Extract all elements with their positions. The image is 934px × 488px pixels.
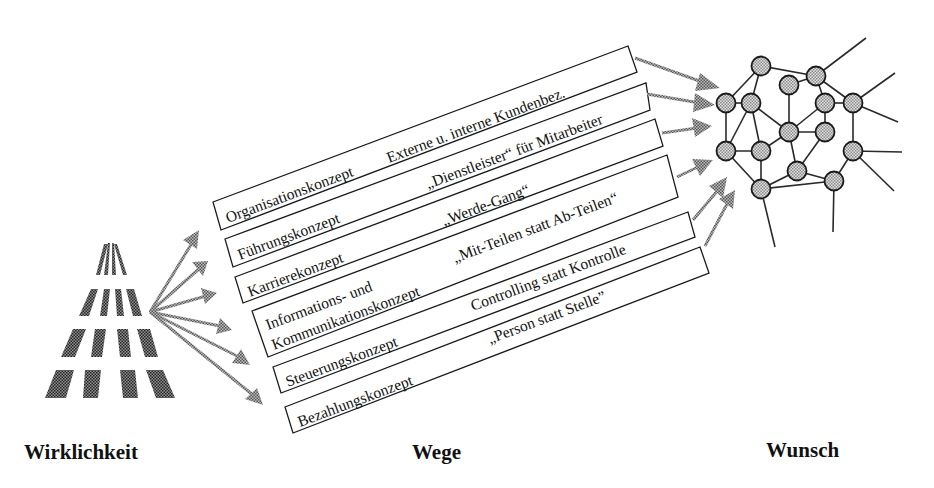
network-node	[717, 94, 736, 113]
network-node	[825, 172, 844, 191]
network-node	[844, 142, 863, 161]
diagram-canvas: Organisationskonzept Externe u. interne …	[0, 0, 934, 488]
network-node	[717, 142, 736, 161]
network-node	[816, 123, 835, 142]
striped-pyramid-icon	[45, 243, 175, 398]
heading-wunsch: Wunsch	[766, 438, 839, 462]
heading-wirklichkeit: Wirklichkeit	[24, 440, 138, 464]
network-node	[807, 67, 826, 86]
network-node	[844, 94, 863, 113]
network-node	[742, 94, 761, 113]
network-node	[752, 57, 771, 76]
network-node	[752, 142, 771, 161]
concept-list: Organisationskonzept Externe u. interne …	[213, 46, 709, 433]
heading-wege: Wege	[412, 440, 461, 464]
network-node	[816, 94, 835, 113]
network-node	[788, 162, 807, 181]
network-node	[752, 180, 771, 199]
network-node	[780, 123, 799, 142]
network-graph-icon	[717, 38, 903, 247]
network-node	[780, 76, 799, 95]
